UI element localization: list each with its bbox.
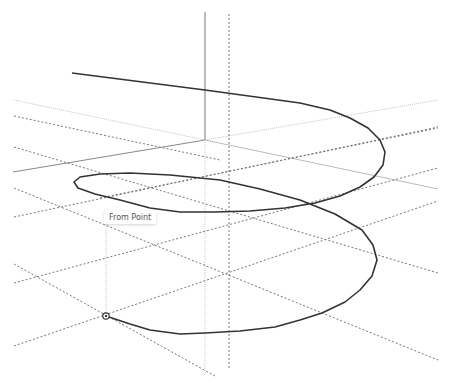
model-viewport[interactable]: From Point: [0, 0, 450, 386]
axis-guide-upper-left: [14, 100, 205, 140]
construction-guides: [14, 116, 438, 376]
red-axis-line: [205, 140, 438, 189]
green-axis-line: [13, 140, 205, 172]
scene-canvas[interactable]: [0, 0, 450, 386]
inference-tooltip: From Point: [104, 211, 156, 224]
inference-point-icon: [103, 313, 109, 319]
